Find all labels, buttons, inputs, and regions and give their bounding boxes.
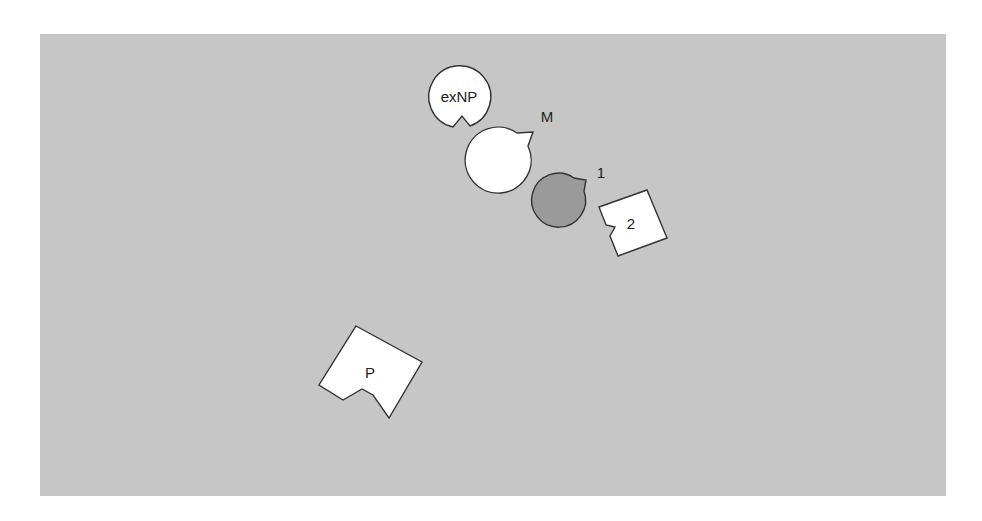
node-P: P xyxy=(319,326,422,418)
node-2: 2 xyxy=(599,190,667,256)
node-exNP: exNP xyxy=(429,66,491,127)
node-M-label: M xyxy=(541,108,554,125)
node-P-label: P xyxy=(365,364,375,381)
node-exNP-label: exNP xyxy=(441,88,478,105)
diagram-canvas: exNP M 1 2 P xyxy=(0,0,982,521)
node-2-label: 2 xyxy=(627,215,635,232)
node-1: 1 xyxy=(532,164,606,227)
node-1-label: 1 xyxy=(597,164,605,181)
